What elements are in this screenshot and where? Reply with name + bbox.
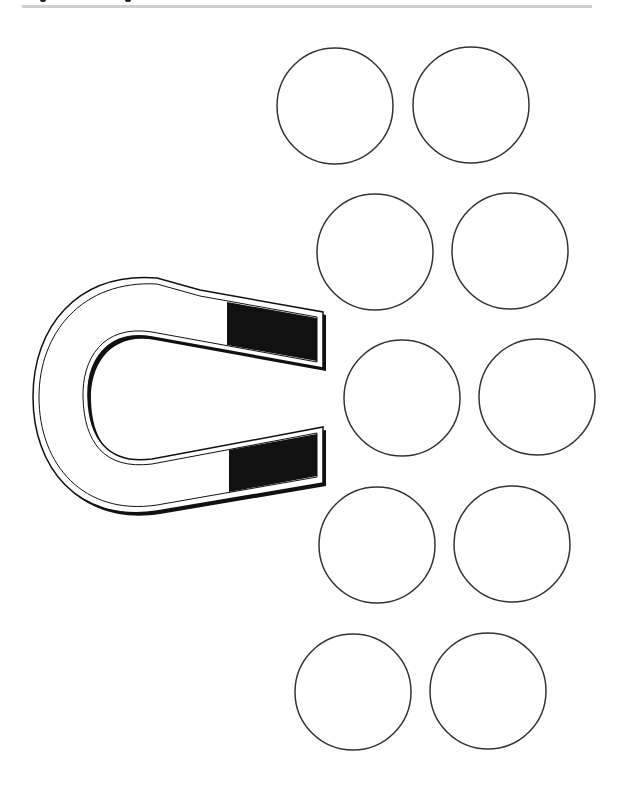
circle-row1-left[interactable]: [277, 48, 393, 164]
circle-row5-left[interactable]: [295, 634, 411, 750]
circle-row4-left[interactable]: [319, 487, 435, 603]
circle-row5-right[interactable]: [430, 633, 546, 749]
horseshoe-magnet-icon: [33, 278, 326, 516]
circle-row2-right[interactable]: [452, 193, 568, 309]
circle-row3-left[interactable]: [344, 340, 460, 456]
circle-row4-right[interactable]: [454, 486, 570, 602]
circle-grid: [277, 47, 595, 750]
worksheet-canvas: [0, 0, 628, 795]
circle-row2-left[interactable]: [317, 194, 433, 310]
circle-row3-right[interactable]: [479, 339, 595, 455]
circle-row1-right[interactable]: [413, 47, 529, 163]
